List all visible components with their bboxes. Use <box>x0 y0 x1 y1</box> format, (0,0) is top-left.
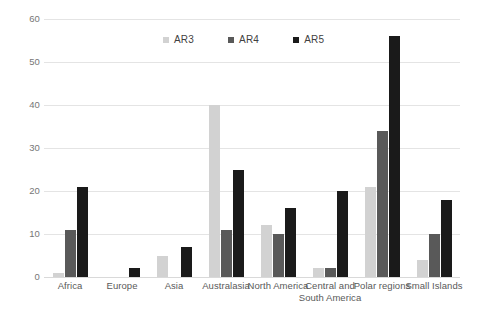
y-axis: 6050403020100 <box>0 0 40 321</box>
y-tick-label-40: 40 <box>6 100 40 110</box>
bar-ar3[interactable] <box>261 225 272 277</box>
bar-ar5[interactable] <box>441 200 452 277</box>
y-tick-label-60: 60 <box>6 14 40 24</box>
bar-group <box>304 19 356 277</box>
y-tick-label-10: 10 <box>6 229 40 239</box>
bar-ar4[interactable] <box>429 234 440 277</box>
bar-ar5[interactable] <box>233 170 244 278</box>
bar-ar5[interactable] <box>337 191 348 277</box>
bar-chart: 6050403020100 AR3AR4AR5 AfricaEuropeAsia… <box>0 0 481 321</box>
bar-ar3[interactable] <box>365 187 376 277</box>
bar-group <box>356 19 408 277</box>
gridline-0 <box>44 277 460 278</box>
bar-group <box>148 19 200 277</box>
x-axis: AfricaEuropeAsiaAustralasiaNorth America… <box>44 280 460 320</box>
bar-ar3[interactable] <box>157 256 168 278</box>
bar-ar4[interactable] <box>377 131 388 277</box>
y-tick-label-50: 50 <box>6 57 40 67</box>
y-tick-label-30: 30 <box>6 143 40 153</box>
bar-ar5[interactable] <box>77 187 88 277</box>
y-tick-label-20: 20 <box>6 186 40 196</box>
bar-group <box>44 19 96 277</box>
bar-ar4[interactable] <box>221 230 232 277</box>
bar-group <box>96 19 148 277</box>
bar-ar5[interactable] <box>389 36 400 277</box>
bar-ar4[interactable] <box>273 234 284 277</box>
bar-ar4[interactable] <box>325 268 336 277</box>
bars-layer <box>44 19 460 277</box>
bar-ar3[interactable] <box>417 260 428 277</box>
bar-ar3[interactable] <box>53 273 64 277</box>
bar-ar5[interactable] <box>181 247 192 277</box>
bar-ar3[interactable] <box>209 105 220 277</box>
bar-ar4[interactable] <box>65 230 76 277</box>
bar-group <box>252 19 304 277</box>
x-tick-label: Small Islands <box>398 280 470 292</box>
bar-ar3[interactable] <box>313 268 324 277</box>
bar-group <box>200 19 252 277</box>
bar-ar5[interactable] <box>285 208 296 277</box>
bar-ar5[interactable] <box>129 268 140 277</box>
bar-group <box>408 19 460 277</box>
